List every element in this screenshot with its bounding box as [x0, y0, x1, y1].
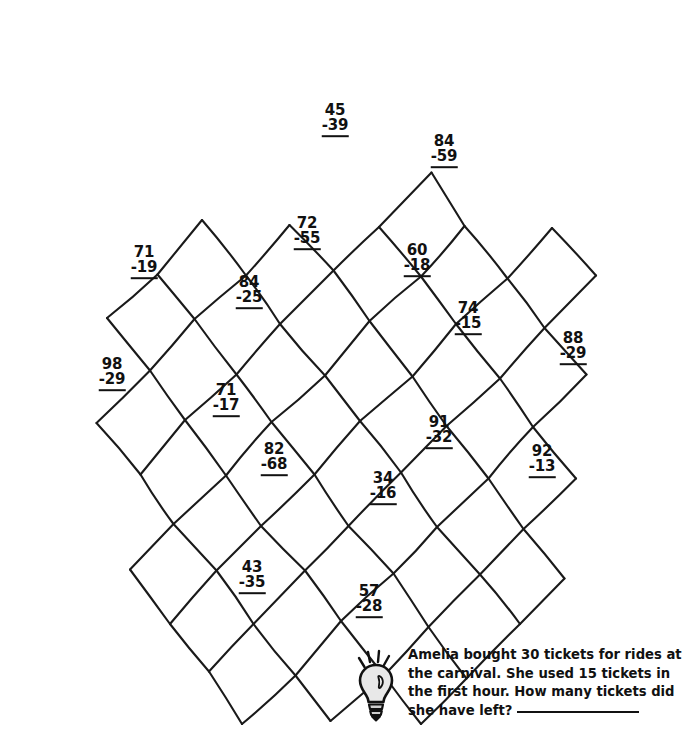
- subtraction-problem: 84-59: [431, 134, 458, 168]
- word-problem-line-4: she have left?: [408, 703, 512, 718]
- subtrahend: -17: [213, 399, 240, 417]
- subtrahend: -16: [370, 487, 397, 505]
- lattice-edge: [421, 277, 456, 325]
- lattice-edge: [508, 279, 545, 329]
- subtraction-problem: 92-13: [529, 444, 556, 478]
- lattice-edge: [315, 421, 361, 475]
- lattice-edge: [261, 475, 315, 527]
- lattice-edge: [533, 375, 587, 428]
- subtrahend: -19: [131, 261, 158, 279]
- worksheet-page: 45-3984-5971-1972-5560-1884-2574-1598-29…: [0, 0, 694, 751]
- lattice-edge: [325, 376, 360, 422]
- lattice-edge: [185, 420, 226, 476]
- lattice-edge: [552, 228, 596, 276]
- lattice-edge: [480, 529, 524, 575]
- subtrahend: -59: [431, 150, 458, 168]
- lattice-edge: [437, 527, 480, 575]
- lattice-edge: [195, 319, 237, 375]
- lattice-edge: [174, 476, 227, 525]
- lattice-edge: [447, 426, 489, 479]
- lattice-edge: [360, 377, 413, 422]
- lattice-edge: [349, 526, 394, 574]
- lattice-edge: [246, 225, 290, 276]
- lattice-edge: [97, 423, 141, 475]
- subtrahend: -18: [404, 259, 431, 277]
- lattice-edge: [500, 379, 533, 428]
- lattice-edge: [480, 575, 520, 625]
- lattice-edge: [432, 173, 465, 227]
- lattice-edge: [500, 328, 545, 379]
- lattice-edge: [437, 479, 489, 528]
- lattice-edge: [370, 321, 413, 377]
- lattice-edge: [130, 570, 170, 625]
- subtrahend: -13: [529, 460, 556, 478]
- subtrahend: -35: [239, 576, 266, 594]
- subtraction-problem: 34-16: [370, 471, 397, 505]
- lattice-edge: [413, 324, 457, 377]
- subtrahend: -15: [455, 317, 482, 335]
- lattice-edge: [150, 371, 185, 421]
- lattice-edge: [130, 524, 174, 570]
- subtraction-problem: 71-19: [131, 245, 158, 279]
- lattice-edge: [524, 529, 565, 579]
- lattice-edge: [254, 624, 296, 676]
- lattice-edge: [394, 527, 438, 574]
- lattice-edge: [508, 228, 553, 279]
- lattice-edge: [394, 574, 429, 628]
- subtraction-problem: 91-32: [426, 415, 453, 449]
- lattice-edge: [242, 676, 296, 725]
- lattice-edge: [237, 375, 272, 423]
- lattice-edge: [158, 220, 203, 275]
- lattice-edge: [429, 575, 481, 628]
- lattice-edge: [158, 275, 195, 320]
- word-problem-line-3: the first hour. How many tickets did: [408, 684, 675, 699]
- lattice-edge: [334, 227, 380, 271]
- lattice-edge: [280, 324, 325, 376]
- lattice-edge: [170, 571, 217, 625]
- lattice-edge: [325, 321, 370, 376]
- lattice-edge: [379, 173, 432, 228]
- subtraction-problem: 84-25: [236, 275, 263, 309]
- subtrahend: -25: [236, 291, 263, 309]
- lattice-edge: [226, 476, 261, 527]
- lattice-edge: [141, 420, 186, 475]
- subtraction-problem: 88-29: [560, 331, 587, 365]
- subtrahend: -29: [99, 373, 126, 391]
- lattice-edge: [237, 324, 281, 375]
- lattice-edge: [334, 271, 370, 322]
- subtraction-problem: 71-17: [213, 383, 240, 417]
- subtraction-problem: 74-15: [455, 301, 482, 335]
- lattice-edge: [524, 479, 577, 530]
- subtraction-problem: 43-35: [239, 560, 266, 594]
- subtraction-problem: 72-55: [294, 216, 321, 250]
- lattice-edge: [545, 276, 597, 329]
- lattice-edge: [150, 319, 195, 371]
- lattice-edge: [315, 475, 349, 527]
- lattice-edge: [305, 526, 349, 571]
- lattice-edge: [272, 376, 326, 423]
- lattice-edge: [174, 524, 217, 571]
- lattice-edge: [465, 226, 508, 279]
- lattice-edge: [447, 379, 501, 427]
- word-problem-text: Amelia bought 30 tickets for rides at th…: [408, 644, 690, 721]
- lattice-edge: [170, 624, 209, 672]
- subtraction-problem: 82-68: [261, 442, 288, 476]
- subtraction-problem: 98-29: [99, 357, 126, 391]
- subtraction-problem: 57-28: [356, 584, 383, 618]
- lattice-edge: [209, 624, 254, 672]
- lattice-edge: [296, 621, 342, 676]
- lattice-edge: [141, 475, 174, 525]
- lattice-edge: [520, 579, 565, 625]
- lattice-edge: [360, 421, 401, 473]
- lattice-edge: [209, 672, 242, 725]
- lattice-edge: [202, 220, 246, 276]
- word-problem: Amelia bought 30 tickets for rides at th…: [352, 644, 690, 722]
- lattice-edge: [280, 271, 334, 325]
- subtrahend: -29: [560, 347, 587, 365]
- lattice-edge: [305, 571, 341, 622]
- subtrahend: -32: [426, 431, 453, 449]
- answer-blank[interactable]: [517, 711, 639, 713]
- lattice-edge: [489, 479, 524, 530]
- lattice-edge-group: [97, 173, 597, 725]
- subtraction-problem: 60-18: [404, 243, 431, 277]
